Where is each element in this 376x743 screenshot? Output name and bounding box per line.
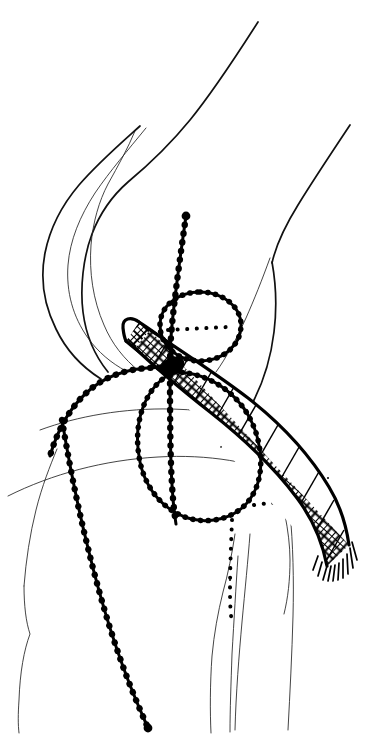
distal-suture-limb-beads [62,420,148,728]
fibula-shaft-line [230,556,238,732]
tibial-crest-line [210,534,235,733]
tibia-shaft-right-line [288,512,293,730]
patella-hidden-margin-dotline [168,327,228,330]
lateral-suture-arc-beads [50,368,168,456]
tibial-tunnel-descending-dotline [230,520,232,624]
anatomical-figure: Knee joint lateral view — patellar tendo… [0,0,376,743]
tibia-shaft-left-line [18,586,30,733]
knee-diagram-canvas [0,0,376,743]
mesh-graft-band [120,319,357,582]
fibula-head-line [284,515,290,614]
distal-suture-free-end [144,724,153,733]
femoral-condyle-posterior-line [272,125,350,263]
tibia-proximal-shoulder-line [24,449,57,586]
proximal-suture-free-end [182,212,191,221]
distal-suture-limb-core [62,420,148,728]
